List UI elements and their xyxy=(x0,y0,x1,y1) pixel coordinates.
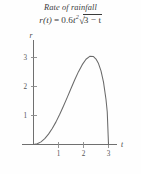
rainfall-curve xyxy=(34,56,109,144)
y-tick-label-3: 3 xyxy=(23,54,27,62)
y-tick-label-1: 1 xyxy=(23,112,27,120)
x-tick-label-2: 2 xyxy=(82,150,86,158)
formula-radicand: 3 − t xyxy=(83,14,101,25)
y-axis-label: r xyxy=(30,31,33,40)
formula-coefficient: 0.6 xyxy=(61,15,73,25)
rainfall-rate-figure: Rate of rainfall r(t)=0.6t2√3 − t 1 2 3 … xyxy=(0,0,141,174)
formula-radical: √3 − t xyxy=(79,14,102,26)
chart-title: Rate of rainfall xyxy=(0,4,141,13)
x-tick-label-3: 3 xyxy=(107,150,111,158)
x-axis-label: t xyxy=(121,140,124,149)
plot-svg: 1 2 3 1 2 3 r t xyxy=(0,26,141,174)
formula-lhs: r(t) xyxy=(39,15,52,25)
x-tick-label-1: 1 xyxy=(57,150,61,158)
formula-equals: = xyxy=(54,15,59,25)
chart-formula: r(t)=0.6t2√3 − t xyxy=(0,14,141,26)
plot-area: 1 2 3 1 2 3 r t xyxy=(0,26,141,174)
y-tick-label-2: 2 xyxy=(23,83,27,91)
